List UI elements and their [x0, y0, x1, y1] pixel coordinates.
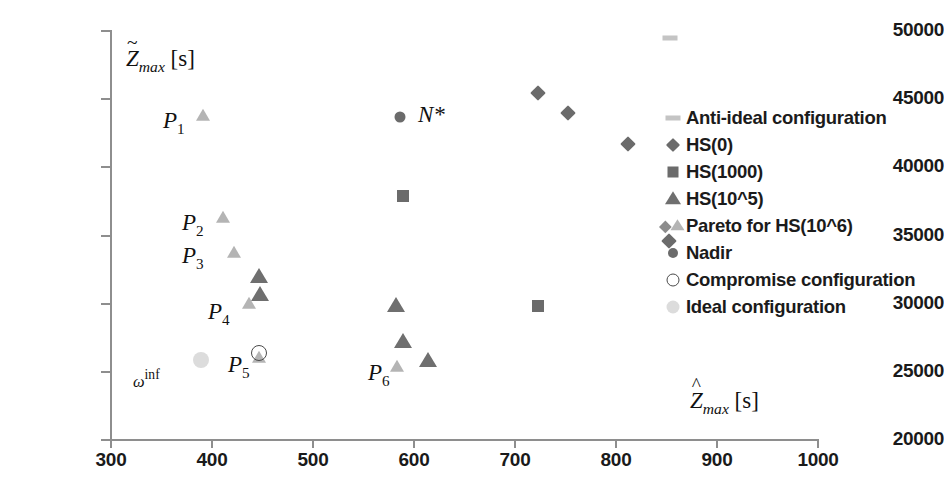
- annotation-nadir: N*: [418, 102, 445, 128]
- x-axis-hat: ^: [692, 374, 701, 396]
- x-tick-label-400: 400: [172, 449, 252, 471]
- annotation-p5: P5: [228, 352, 250, 382]
- diamond-triangle-icon: [660, 212, 686, 239]
- legend-label-compromise: Compromise configuration: [686, 269, 915, 291]
- y-tick-50000: [101, 30, 110, 32]
- x-tick-600: [413, 439, 415, 448]
- circle-pale-icon: [660, 293, 686, 320]
- y-tick-label-20000: 20000: [852, 428, 944, 450]
- point-hs10e5: [419, 352, 437, 367]
- point-hs10e5: [394, 333, 412, 348]
- legend-item-pareto-hs10e6[interactable]: Pareto for HS(10^6): [660, 212, 944, 239]
- annotation-omega-inf: ωinf: [133, 367, 160, 392]
- point-nadir: [395, 112, 406, 123]
- x-tick-1000: [817, 439, 819, 448]
- x-tick-label-800: 800: [576, 449, 656, 471]
- x-axis-subscript: max: [703, 400, 729, 417]
- point-hs0: [620, 136, 636, 152]
- y-tick-40000: [101, 166, 110, 168]
- legend-label-hs0: HS(0): [686, 134, 733, 156]
- x-tick-500: [312, 439, 314, 448]
- diamond-icon: [660, 131, 686, 158]
- x-tick-300: [110, 439, 112, 448]
- x-tick-900: [716, 439, 718, 448]
- circle-icon: [660, 239, 686, 266]
- point-hs10e5: [250, 268, 268, 283]
- x-tick-label-700: 700: [475, 449, 555, 471]
- point-hs0: [530, 85, 546, 101]
- point-compromise: [251, 345, 267, 361]
- x-axis-unit: [s]: [735, 388, 759, 413]
- legend-item-ideal[interactable]: Ideal configuration: [660, 293, 944, 320]
- point-hs1000: [532, 300, 544, 312]
- legend-label-hs1000: HS(1000): [686, 161, 763, 183]
- annotation-p3: P3: [182, 243, 204, 273]
- square-icon: [660, 158, 686, 185]
- point-hs1000: [397, 190, 409, 202]
- legend-item-hs1000[interactable]: HS(1000): [660, 158, 944, 185]
- y-tick-25000: [101, 371, 110, 373]
- y-axis-subscript: max: [139, 58, 165, 75]
- legend-item-anti-ideal[interactable]: Anti-ideal configuration: [660, 104, 944, 131]
- x-tick-400: [211, 439, 213, 448]
- point-pareto-hs10e6: [390, 360, 404, 372]
- point-pareto-hs10e6: [216, 211, 230, 223]
- y-tick-45000: [101, 98, 110, 100]
- point-pareto-hs10e6: [196, 109, 210, 121]
- annotation-p6: P6: [368, 360, 390, 390]
- x-tick-label-1000: 1000: [778, 449, 858, 471]
- legend-label-pareto-hs10e6: Pareto for HS(10^6): [686, 215, 853, 237]
- legend-label-ideal: Ideal configuration: [686, 296, 846, 318]
- annotation-p2: P2: [182, 210, 204, 240]
- dash-icon: [660, 104, 686, 131]
- legend-item-compromise[interactable]: Compromise configuration: [660, 266, 944, 293]
- point-pareto-hs10e6: [227, 246, 241, 258]
- x-tick-label-300: 300: [71, 449, 151, 471]
- y-tick-label-50000: 50000: [852, 19, 944, 41]
- y-axis-unit: [s]: [171, 46, 195, 71]
- x-axis-line: [110, 439, 819, 441]
- legend-item-hs10e5[interactable]: HS(10^5): [660, 185, 944, 212]
- legend: Anti-ideal configuration HS(0) HS(1000) …: [660, 104, 944, 320]
- legend-item-nadir[interactable]: Nadir: [660, 239, 944, 266]
- y-axis-overline: ~: [127, 32, 138, 54]
- y-axis-title: Z~max [s]: [126, 46, 195, 76]
- y-axis-line: [110, 30, 112, 440]
- x-axis-title: Z^max [s]: [690, 388, 759, 418]
- x-tick-label-500: 500: [273, 449, 353, 471]
- point-anti-ideal: [663, 36, 678, 41]
- annotation-p1: P1: [163, 108, 185, 138]
- y-tick-20000: [101, 439, 110, 441]
- circle-open-icon: [660, 266, 686, 293]
- legend-label-anti-ideal: Anti-ideal configuration: [686, 107, 886, 129]
- scatter-chart: 50000 45000 40000 35000 30000 25000 2000…: [0, 0, 944, 497]
- point-hs10e5: [387, 297, 405, 312]
- point-ideal: [193, 352, 209, 368]
- legend-label-nadir: Nadir: [686, 242, 732, 264]
- triangle-icon: [660, 185, 686, 212]
- y-tick-35000: [101, 235, 110, 237]
- annotation-p4: P4: [208, 299, 230, 329]
- x-tick-800: [615, 439, 617, 448]
- point-hs0: [560, 105, 576, 121]
- legend-item-hs0[interactable]: HS(0): [660, 131, 944, 158]
- y-tick-30000: [101, 303, 110, 305]
- point-pareto-hs10e6: [242, 297, 256, 309]
- x-tick-label-600: 600: [374, 449, 454, 471]
- y-tick-label-25000: 25000: [852, 360, 944, 382]
- x-tick-label-900: 900: [677, 449, 757, 471]
- x-tick-700: [514, 439, 516, 448]
- legend-label-hs10e5: HS(10^5): [686, 188, 763, 210]
